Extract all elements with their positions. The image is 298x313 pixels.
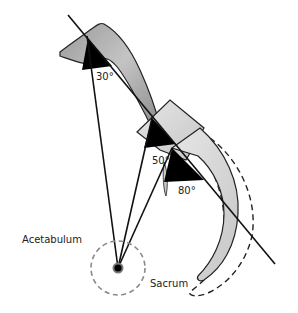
reference-line-50 (118, 118, 152, 268)
reference-line-80 (118, 148, 172, 268)
acetabulum-label: Acetabulum (22, 234, 82, 245)
angle-label-30: 30° (96, 71, 114, 82)
pelvic-axis-line (68, 15, 275, 264)
angle-label-50: 50° (152, 155, 170, 166)
angle-label-80: 80° (178, 185, 196, 196)
acetabulum-center-dot (114, 264, 121, 271)
sacrum-label: Sacrum (150, 278, 188, 289)
pelvic-tilt-diagram: 30° 50° 80° Acetabulum Sacrum (0, 0, 298, 313)
